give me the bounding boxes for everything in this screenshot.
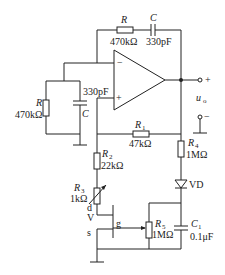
ground-resistor (43, 100, 49, 116)
R1-name: R (134, 119, 141, 130)
feedback-R-value: 470kΩ (110, 36, 137, 47)
output-terminal-minus (198, 115, 202, 119)
R2-name: R (101, 148, 108, 159)
ground-R-value: 470kΩ (15, 109, 42, 120)
resistor-R2 (94, 153, 100, 169)
R4-name: R (187, 137, 194, 148)
schematic-svg: − + + u o − R 470kΩ C 330pF R 470kΩ C 33… (0, 0, 225, 275)
output-label: u (196, 92, 201, 103)
output-minus-label: − (204, 111, 210, 122)
output-terminal-plus (198, 78, 202, 82)
wiper-arrow (141, 226, 146, 230)
feedback-resistor (117, 27, 133, 33)
R3-value: 1kΩ (70, 193, 87, 204)
R4-value: 1MΩ (186, 149, 207, 160)
R5-value: 1MΩ (152, 229, 173, 240)
fet-source-label: s (87, 227, 91, 238)
R5-name: R (154, 218, 161, 229)
C1-sub: 1 (198, 223, 202, 231)
R1-value: 47kΩ (129, 138, 151, 149)
feedback-R-name: R (120, 14, 127, 25)
resistor-R3 (94, 188, 100, 204)
output-label-sub: o (203, 97, 207, 105)
wien-bridge-oscillator-schematic: − + + u o − R 470kΩ C 330pF R 470kΩ C 33… (0, 0, 225, 275)
diode-label: VD (189, 179, 203, 190)
opamp-minus: − (117, 57, 123, 68)
fet-name: V (87, 212, 95, 223)
output-plus-label: + (205, 74, 211, 85)
R3-name: R (73, 182, 80, 193)
diode-icon (175, 180, 187, 188)
feedback-C-name: C (150, 12, 157, 23)
opamp-plus: + (116, 92, 122, 103)
R1-sub: 1 (142, 124, 146, 132)
C1-value: 0.1μF (190, 231, 214, 242)
fet-gate-label: g (116, 218, 121, 229)
ground-C-name: C (82, 108, 89, 119)
resistor-R1 (133, 131, 149, 137)
feedback-C-value: 330pF (146, 36, 172, 47)
C1-name: C (191, 218, 198, 229)
ground-C-value: 330pF (83, 86, 109, 97)
ground-R-name: R (35, 97, 42, 108)
R2-value: 22kΩ (101, 160, 123, 171)
resistor-R4 (178, 141, 184, 157)
